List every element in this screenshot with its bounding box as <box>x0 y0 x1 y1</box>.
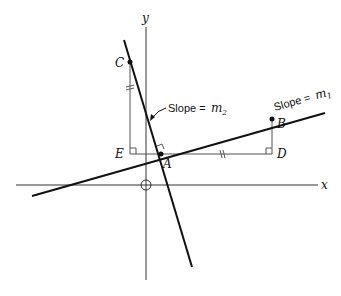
slope-m2-subscript: 2 <box>221 108 227 117</box>
slope-m2-prefix: Slope = <box>168 102 209 114</box>
point-b <box>270 117 275 122</box>
label-c: C <box>115 56 124 70</box>
point-c <box>128 60 133 65</box>
slope-label-m1: Slope = m 1 <box>272 84 333 116</box>
slope-label-m2: Slope = m 2 <box>150 101 227 121</box>
slope-m1-prefix: Slope = <box>272 90 314 113</box>
perpendicular-lines-diagram: x y A B C D E <box>0 0 341 296</box>
x-axis-label: x <box>321 178 328 192</box>
label-b: B <box>276 117 286 131</box>
slope-m2-symbol: m <box>211 101 222 115</box>
axes: x y <box>16 11 328 280</box>
right-angle-a <box>157 144 164 149</box>
label-a: A <box>162 157 172 171</box>
label-e: E <box>114 147 124 161</box>
point-a <box>159 152 164 157</box>
right-angle-e <box>130 148 136 154</box>
label-d: D <box>276 147 287 161</box>
right-angle-d <box>266 148 272 154</box>
y-axis-label: y <box>141 11 149 25</box>
slope-m1-subscript: 1 <box>326 91 333 101</box>
